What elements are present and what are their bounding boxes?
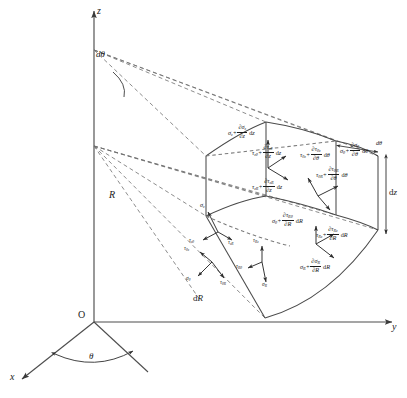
stress-label-inner-sigma-R: σR [262,282,267,289]
stress-label-inner-tau-thetaz: τθz [184,246,189,253]
origin-label: O [78,310,85,320]
arrow-inner-sigma-R [262,262,266,282]
stress-label-inner-sigma-theta: σθ [186,276,190,283]
construction-line-9 [94,146,200,300]
arrow-inner-tau-Rtheta [248,262,262,268]
increment-label-radial-tau-Rz: τRz+∂τRz∂R dR [316,226,348,241]
x-axis-label: x [10,372,14,382]
construction-line-10 [94,146,265,318]
increment-label-theta-tau-thetaz: τθz+∂τθz∂θ dθ [300,146,330,161]
increment-label-theta-sigma-theta: σθ+∂σθ∂θ dθ [340,142,368,157]
sector-outer-arc [265,230,378,318]
stress-element-diagram [0,0,407,398]
increment-label-top-tau-ztheta: τzθ+∂τzθ∂z dz [252,144,281,159]
construction-line-8 [94,146,378,230]
stress-label-inner-tau-thetaR: τθR [220,280,226,287]
theta-ray [94,322,148,372]
stress-label-inner-tau-Rz: τRz [253,238,259,245]
increment-label-radial-tau-Rtheta: σθ+∂τRθ∂R dR [272,212,303,227]
arrow-theta-tau-thetaR-inc [318,196,330,210]
stress-label-inner-tau-Rtheta: τRθ [236,264,242,271]
figure-canvas: z y x O dθ θ R dR dz dθ σz τzθ τzR τθz σ… [0,0,407,398]
construction-line-2 [94,50,206,156]
arrow-theta-sigma-theta-inc [318,186,338,196]
increment-label-top-tau-zR: τzR+∂τzR∂z dz [252,178,282,193]
construction-line-4 [94,50,378,156]
stress-label-inner-tau-ztheta: τzθ [189,238,194,245]
x-axis [22,322,94,379]
inner-bottom-arc [206,196,266,216]
increment-label-radial-sigma-R: σR+∂σR∂R dR [300,258,330,273]
construction-line-1 [94,50,266,122]
arrow-radial-sigma-R-inc [316,244,334,258]
dz-right-label: dz [389,188,397,197]
arrow-inner-sigma-theta [198,262,212,276]
radial-edge-top-near [266,122,336,141]
stress-label-inner-tau-zR: τzR [228,240,234,247]
d-theta-top-label: dθ [96,50,105,59]
arrow-inner-tau-thetaz [200,252,212,262]
z-axis-label: z [97,6,101,16]
y-axis-label: y [392,322,396,332]
arrow-inner-tau-thetaR [212,262,224,278]
theta-arc [55,351,133,362]
increment-label-theta-tau-thetaR: τθR+∂τθR∂θ dθ [316,166,348,181]
d-theta-arc [113,72,125,97]
arrow-inner-tau-ztheta [203,232,218,240]
d-theta-right-label: dθ [376,140,382,146]
construction-line-5 [94,146,206,216]
dR-label: dR [193,294,203,303]
construction-line-6 [94,146,266,196]
increment-label-top-sigma-z: σz+∂σz∂z dz [228,124,255,139]
radius-label: R [109,190,115,200]
theta-base-label: θ [89,352,93,361]
stress-label-inner-sigma-z: σz [200,202,205,209]
